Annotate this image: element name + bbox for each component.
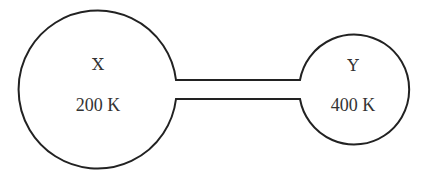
bulb-x-temperature: 200 K — [58, 95, 138, 116]
bulb-y-temperature: 400 K — [313, 95, 393, 116]
bulb-x-label: X — [78, 54, 118, 74]
two-bulb-diagram: X 200 K Y 400 K — [0, 0, 425, 176]
bulb-y-label: Y — [333, 55, 373, 75]
